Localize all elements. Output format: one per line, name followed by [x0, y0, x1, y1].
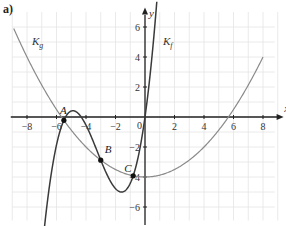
- curve-label-kf: Kf: [162, 35, 174, 50]
- x-axis-label: x: [283, 102, 286, 114]
- function-graph: xy −8−6−4−202468−6−4−2246 ABC KgKf: [0, 0, 286, 226]
- point-label-c: C: [124, 162, 132, 174]
- y-axis-label: y: [148, 7, 154, 19]
- y-tick-label: −2: [129, 142, 140, 153]
- y-tick-label: 4: [135, 52, 140, 63]
- point-a: [61, 118, 66, 123]
- y-tick-label: −6: [129, 202, 140, 213]
- origin-label: 0: [137, 120, 142, 131]
- point-label-a: A: [59, 104, 67, 116]
- y-tick-label: 6: [135, 22, 140, 33]
- y-axis-arrow-icon: [142, 8, 148, 15]
- y-tick-label: 2: [135, 82, 140, 93]
- x-tick-label: 4: [202, 121, 207, 132]
- x-tick-label: 8: [261, 121, 266, 132]
- x-tick-label: −8: [22, 121, 33, 132]
- point-label-b: B: [105, 143, 112, 155]
- point-c: [131, 173, 136, 178]
- x-tick-label: 2: [172, 121, 177, 132]
- x-tick-label: 6: [231, 121, 236, 132]
- intersection-points: ABC: [59, 104, 136, 178]
- x-tick-label: −2: [110, 121, 121, 132]
- x-axis-arrow-icon: [277, 114, 284, 120]
- point-b: [98, 158, 103, 163]
